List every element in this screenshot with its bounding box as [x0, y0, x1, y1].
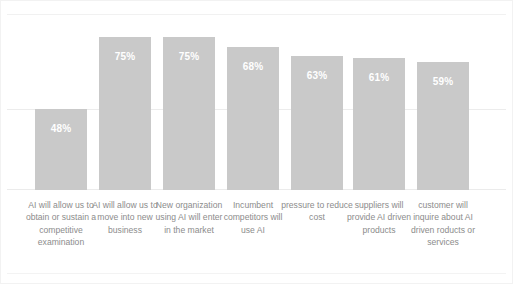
category-label: AI will allow us to obtain or sustain a … — [25, 199, 97, 249]
bar-value-label: 59% — [417, 76, 469, 87]
bar-value-label: 63% — [291, 70, 343, 81]
bar-value-label: 48% — [35, 123, 87, 134]
bar-chart: 48% 75% 75% 68% 63% 61% 59% AI will allo… — [0, 0, 513, 284]
bar[interactable]: 75% — [163, 37, 215, 190]
bar-value-label: 75% — [99, 51, 151, 62]
bar-value-label: 75% — [163, 51, 215, 62]
bar-value-label: 68% — [227, 61, 279, 72]
category-axis: AI will allow us to obtain or sustain a … — [1, 199, 513, 279]
category-label: suppliers will provide AI driven product… — [343, 199, 415, 236]
bar[interactable]: 61% — [353, 58, 405, 190]
bar-value-label: 61% — [353, 72, 405, 83]
bar[interactable]: 63% — [291, 56, 343, 190]
category-label: Incumbent competitors will use AI — [217, 199, 289, 236]
bar[interactable]: 48% — [35, 109, 87, 190]
bar[interactable]: 75% — [99, 37, 151, 190]
category-label: customer will inquire about AI driven ro… — [407, 199, 479, 249]
bar[interactable]: 68% — [227, 47, 279, 190]
category-label: New organization using AI will enter in … — [153, 199, 225, 236]
category-label: AI will allow us to move into new busine… — [89, 199, 161, 236]
plot-area: 48% 75% 75% 68% 63% 61% 59% — [1, 1, 513, 190]
bar[interactable]: 59% — [417, 62, 469, 190]
